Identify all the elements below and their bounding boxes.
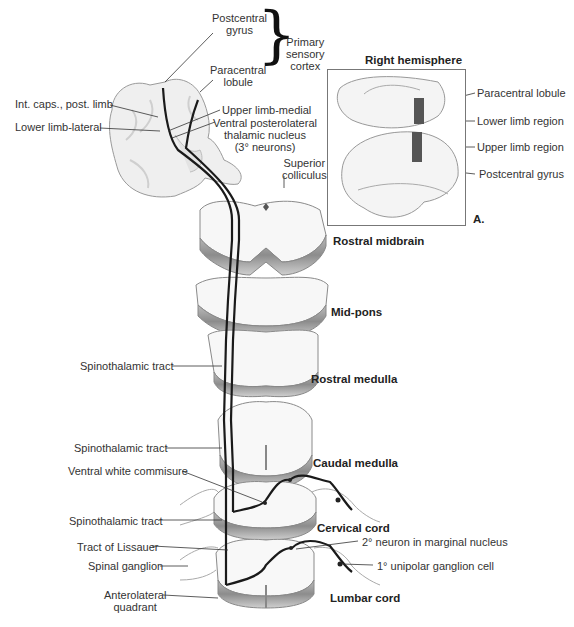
label-superior-colliculus: Superior colliculus — [282, 157, 327, 181]
label-spinothalamic-tract-cervical: Spinothalamic tract — [69, 515, 163, 527]
label-lower-limb-lateral: Lower limb-lateral — [15, 121, 102, 133]
label-upper-limb-medial: Upper limb-medial — [222, 104, 311, 116]
panel-letter: A. — [473, 213, 485, 225]
label-second-order-neuron: 2° neuron in marginal nucleus — [362, 536, 508, 548]
level-rostral-midbrain: Rostral midbrain — [333, 235, 424, 247]
rostral-midbrain-section — [200, 201, 326, 275]
label-primary-sensory-cortex: Primary sensory cortex — [286, 36, 325, 72]
inset-label-lower-limb-region: Lower limb region — [477, 115, 564, 127]
inset-label-postcentral-gyrus: Postcentral gyrus — [479, 168, 564, 180]
level-mid-pons: Mid-pons — [331, 306, 382, 318]
label-internal-capsule: Int. caps., post. limb — [15, 98, 113, 110]
level-lumbar-cord: Lumbar cord — [330, 592, 400, 604]
label-postcentral-gyrus: Postcentral gyrus — [212, 12, 267, 36]
right-hemisphere-inset — [327, 69, 466, 226]
level-rostral-medulla: Rostral medulla — [311, 373, 397, 385]
mid-pons-section — [196, 277, 328, 338]
label-first-order-neuron: 1° unipolar ganglion cell — [377, 560, 494, 572]
label-tract-of-lissauer: Tract of Lissauer — [77, 541, 159, 553]
label-spinothalamic-tract-medulla: Spinothalamic tract — [80, 360, 174, 372]
label-paracentral-lobule: Paracentral lobule — [210, 64, 266, 88]
label-spinal-ganglion: Spinal ganglion — [88, 560, 163, 572]
inset-label-upper-limb-region: Upper limb region — [477, 141, 564, 153]
level-caudal-medulla: Caudal medulla — [313, 457, 398, 469]
label-vpl-nucleus: Ventral posterolateral thalamic nucleus … — [213, 117, 317, 153]
hemisphere-illustration — [328, 70, 465, 225]
label-anterolateral-quadrant: Anterolateral quadrant — [104, 589, 166, 613]
spinothalamic-pathway-figure: } Postcentral gyrus Paracentral lobule P… — [0, 0, 574, 627]
label-ventral-white-commissure: Ventral white commisure — [68, 465, 188, 477]
label-spinothalamic-tract-caudal: Spinothalamic tract — [74, 442, 168, 454]
inset-label-paracentral-lobule: Paracentral lobule — [477, 87, 566, 99]
level-cervical-cord: Cervical cord — [317, 522, 390, 534]
inset-title: Right hemisphere — [365, 54, 462, 66]
